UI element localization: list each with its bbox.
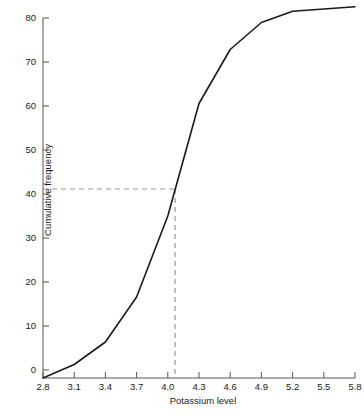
x-tick-label-5-8: 5.8	[348, 382, 361, 392]
x-tick-label-4-6: 4.6	[224, 382, 237, 392]
y-tick-label-40: 40	[6, 189, 36, 199]
x-tick-label-4-9: 4.9	[255, 382, 268, 392]
y-tick-label-70: 70	[6, 57, 36, 67]
y-tick-label-20: 20	[6, 277, 36, 287]
x-axis-ticks	[43, 372, 355, 378]
y-tick-label-60: 60	[6, 101, 36, 111]
cumulative-frequency-curve	[43, 7, 355, 378]
x-axis-title: Potassium level	[170, 395, 237, 406]
cumulative-frequency-chart: 80 70 60 50 40 30 20 10 0 2.8 3.1 3.4 3.…	[0, 0, 364, 420]
x-tick-label-4-0: 4.0	[161, 382, 174, 392]
x-tick-label-3-7: 3.7	[130, 382, 143, 392]
x-tick-label-3-4: 3.4	[99, 382, 112, 392]
x-tick-label-2-8: 2.8	[36, 382, 49, 392]
plot-area	[0, 0, 364, 420]
y-tick-label-30: 30	[6, 233, 36, 243]
y-tick-label-10: 10	[6, 321, 36, 331]
x-tick-label-3-1: 3.1	[68, 382, 81, 392]
x-tick-label-5-2: 5.2	[286, 382, 299, 392]
x-tick-label-5-5: 5.5	[317, 382, 330, 392]
y-tick-label-0: 0	[6, 365, 36, 375]
x-tick-label-4-3: 4.3	[192, 382, 205, 392]
y-axis-title: Cumulative frequency	[42, 144, 53, 236]
y-tick-label-80: 80	[6, 13, 36, 23]
y-tick-label-50: 50	[6, 145, 36, 155]
